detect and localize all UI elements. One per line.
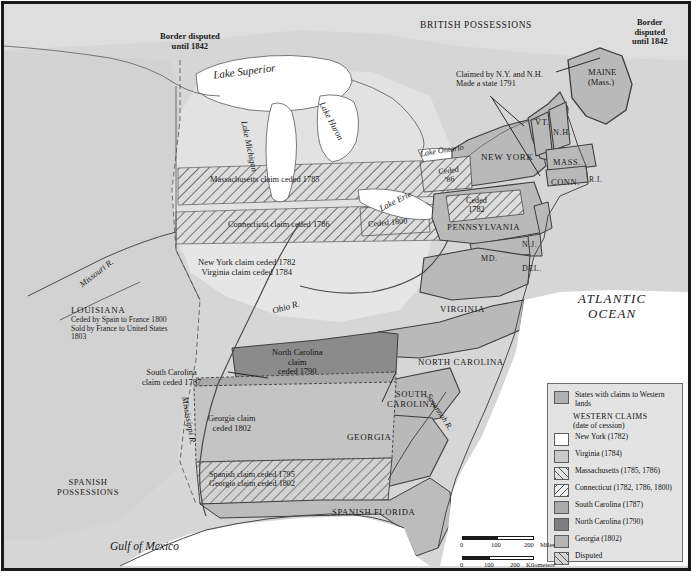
scale-kilometers-bar bbox=[462, 556, 534, 560]
legend-label-new-york: New York (1782) bbox=[575, 432, 628, 441]
historical-map: BRITISH POSSESSIONS Border disputed unti… bbox=[0, 0, 692, 585]
scale-miles-bar bbox=[462, 536, 534, 540]
legend-item-georgia: Georgia (1802) bbox=[554, 534, 677, 548]
legend-label-connecticut: Connecticut (1782, 1786, 1800) bbox=[575, 483, 672, 492]
legend-item-virginia: Virginia (1784) bbox=[554, 449, 677, 463]
legend-label-states-with-claims: States with claims to Western lands bbox=[575, 390, 677, 408]
legend-item-massachusetts: Massachusetts (1785, 1786) bbox=[554, 466, 677, 480]
scale-km-unit: Kilometers bbox=[526, 561, 555, 568]
legend-label-disputed: Disputed bbox=[575, 551, 602, 560]
legend-swatch-connecticut bbox=[554, 484, 569, 497]
legend-swatch-new-york bbox=[554, 433, 569, 446]
legend-heading-line1: WESTERN CLAIMS bbox=[573, 412, 677, 421]
scale-miles-tick-2: 200 bbox=[524, 541, 534, 548]
scale-kilometers-row: 0 100 200 Kilometers bbox=[462, 556, 554, 571]
scale-km-tick-2: 200 bbox=[510, 561, 520, 568]
scale-bar: 0 100 200 Miles 0 100 200 Kilometers bbox=[462, 536, 554, 571]
scale-km-tick-0: 0 bbox=[460, 561, 463, 568]
legend-swatch-south-carolina bbox=[554, 501, 569, 514]
legend-label-virginia: Virginia (1784) bbox=[575, 449, 622, 458]
legend-item-connecticut: Connecticut (1782, 1786, 1800) bbox=[554, 483, 677, 497]
legend-swatch-georgia bbox=[554, 535, 569, 548]
scale-miles-tick-0: 0 bbox=[460, 541, 463, 548]
scale-miles-row: 0 100 200 Miles bbox=[462, 536, 554, 551]
legend-label-massachusetts: Massachusetts (1785, 1786) bbox=[575, 466, 660, 475]
legend-swatch-disputed bbox=[554, 552, 569, 565]
legend-item-north-carolina: North Carolina (1790) bbox=[554, 517, 677, 531]
legend-label-georgia: Georgia (1802) bbox=[575, 534, 621, 543]
legend-heading: WESTERN CLAIMS (date of cession) bbox=[554, 412, 677, 431]
legend-item-south-carolina: South Carolina (1787) bbox=[554, 500, 677, 514]
legend-swatch-north-carolina bbox=[554, 518, 569, 531]
legend-item-states-with-claims: States with claims to Western lands bbox=[554, 390, 677, 408]
legend-swatch-massachusetts bbox=[554, 467, 569, 480]
legend-item-new-york: New York (1782) bbox=[554, 432, 677, 446]
legend-swatch-virginia bbox=[554, 450, 569, 463]
legend-item-disputed: Disputed bbox=[554, 551, 677, 565]
legend-label-south-carolina: South Carolina (1787) bbox=[575, 500, 643, 509]
legend-swatch-states-with-claims bbox=[554, 391, 569, 404]
legend-heading-line2: (date of cession) bbox=[573, 421, 677, 430]
scale-km-tick-1: 100 bbox=[484, 561, 494, 568]
map-legend: States with claims to Western lands WEST… bbox=[547, 383, 683, 562]
scale-miles-unit: Miles bbox=[540, 541, 555, 548]
scale-miles-tick-1: 100 bbox=[491, 541, 501, 548]
legend-label-north-carolina: North Carolina (1790) bbox=[575, 517, 643, 526]
